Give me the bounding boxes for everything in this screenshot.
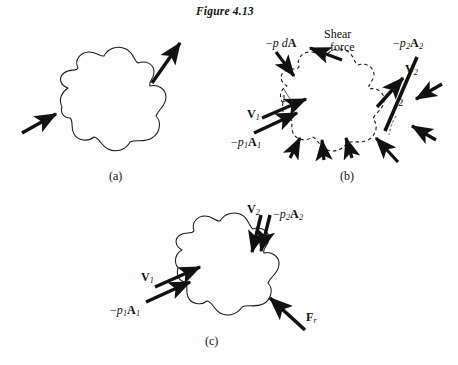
panel-b-pressure-force-2-label: −p2A2 <box>393 37 423 51</box>
pressure-arrow-right-lower <box>412 126 436 140</box>
figure-title: Figure 4.13 <box>196 6 254 18</box>
panel-b-shear-force-label-line1: Shear <box>324 28 351 40</box>
panel-label-c: (c) <box>205 335 218 347</box>
panel-label-b: (b) <box>340 170 354 182</box>
panel-b-shear-force-label-line2: force <box>330 41 355 53</box>
panel-c-resultant-force-label: Fr <box>306 311 317 325</box>
figure-graphics <box>0 0 458 365</box>
panel-c-pressure-force-2-label: −p2A2 <box>273 208 303 222</box>
panel-b-pressure-differential-label: −p dA <box>266 37 296 49</box>
panel-c-velocity-2-arrow <box>252 215 261 252</box>
figure-container: Figure 4.13 (a) (b) (c) −p dA Shear forc… <box>0 0 458 365</box>
panel-b-velocity-1-label: V1 <box>247 108 260 122</box>
panel-a-graphics <box>22 43 180 151</box>
panel-b-control-surface-outline <box>280 49 384 151</box>
pressure-arrow-bottom-right <box>376 138 398 162</box>
panel-c-pressure-force-2-arrow <box>261 215 270 251</box>
panel-c-velocity-1-label: V1 <box>141 271 154 285</box>
panel-c-velocity-2-label: V2 <box>247 203 260 217</box>
pressure-arrow-bottom-1 <box>290 138 300 158</box>
pressure-arrow-bottom-2 <box>322 140 324 160</box>
panel-c-pressure-force-1-label: −p1A1 <box>110 304 140 318</box>
panel-c-resultant-force-arrow <box>270 298 305 330</box>
panel-c-control-volume-outline <box>175 213 279 315</box>
panel-a-outflow-arrow <box>152 43 180 83</box>
pressure-arrow-bottom-3 <box>346 138 352 158</box>
panel-label-a: (a) <box>109 170 122 182</box>
panel-a-inflow-arrow <box>22 114 56 133</box>
pressure-arrow-right-upper <box>416 84 442 99</box>
panel-b-section-2-label: 2 <box>398 97 404 108</box>
panel-a-control-volume-outline <box>60 47 166 151</box>
panel-c-graphics <box>146 213 305 330</box>
panel-b-pressure-force-1-label: −p1A1 <box>231 136 261 150</box>
panel-b-section-1-label: 1 <box>281 93 287 104</box>
panel-b-pressure-force-1-arrow <box>254 113 297 133</box>
panel-b-velocity-2-label: V2 <box>405 63 418 77</box>
pressure-arrow-top-left <box>276 52 294 76</box>
